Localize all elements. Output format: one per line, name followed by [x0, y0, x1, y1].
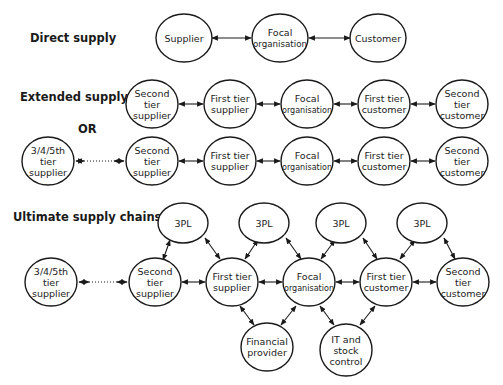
node-u-first-supplier: First tiersupplier	[206, 258, 258, 306]
node-label: Customer	[355, 33, 401, 44]
node-label: Focal	[268, 27, 293, 38]
node-e2-second-supplier: Secondtiersupplier	[126, 137, 178, 185]
node-label: tier	[147, 277, 163, 288]
node-label: 3/4/5th	[34, 266, 68, 277]
node-label: supplier	[213, 282, 251, 293]
node-label: Focal	[297, 271, 322, 282]
node-label: First tier	[366, 271, 405, 282]
edge	[400, 240, 415, 259]
node-label: First tier	[212, 271, 251, 282]
node-e2-first-customer: First tiercustomer	[358, 137, 410, 185]
node-label: supplier	[32, 288, 70, 299]
node-label: First tier	[210, 150, 249, 161]
node-label: 3PL	[413, 218, 431, 229]
edge	[363, 238, 377, 259]
edge	[281, 306, 296, 325]
node-label: First tier	[210, 93, 249, 104]
node-label: Second	[446, 266, 481, 277]
node-label: provider	[247, 347, 287, 358]
node-u-second-supplier: Secondtiersupplier	[129, 258, 181, 306]
node-e2-n-tier-supplier: 3/4/5thtiersupplier	[22, 137, 74, 185]
node-label: supplier	[211, 104, 249, 115]
node-label: First tier	[364, 150, 403, 161]
node-label: Focal	[295, 93, 320, 104]
node-label: stock	[333, 345, 359, 356]
node-label: tier	[40, 156, 56, 167]
section-label-extended-supply: Extended supply	[20, 90, 128, 104]
node-label: 3PL	[255, 218, 273, 229]
node-u-second-customer: Secondtiercustomer	[437, 258, 489, 306]
node-label: tier	[454, 156, 470, 167]
node-label: customer	[440, 110, 485, 121]
node-label: supplier	[29, 167, 67, 178]
node-d-focal: Focalorganisation	[252, 14, 308, 62]
or-label: OR	[78, 122, 97, 136]
node-e2-first-supplier: First tiersupplier	[204, 137, 256, 185]
node-label: Second	[445, 145, 480, 156]
edge	[205, 238, 220, 259]
section-label-ultimate-supply-chains: Ultimate supply chains	[13, 210, 162, 224]
node-label: customer	[362, 104, 407, 115]
node-label: Second	[135, 88, 170, 99]
node-label: 3/4/5th	[31, 145, 65, 156]
node-u-first-customer: First tiercustomer	[360, 258, 412, 306]
node-e2-second-customer: Secondtiercustomer	[436, 137, 488, 185]
section-label-direct-supply: Direct supply	[30, 31, 117, 45]
node-label: tier	[144, 156, 160, 167]
node-label: tier	[144, 99, 160, 110]
node-u-3pl-4: 3PL	[397, 203, 447, 243]
edge	[286, 238, 301, 259]
node-label: customer	[440, 167, 485, 178]
node-e1-first-customer: First tiercustomer	[358, 80, 410, 128]
node-label: supplier	[211, 161, 249, 172]
node-label: Financial	[246, 336, 288, 347]
node-u-it: IT andstockcontrol	[320, 324, 372, 376]
edge	[444, 238, 455, 259]
node-label: organisation	[282, 161, 332, 172]
node-label: 3PL	[174, 218, 192, 229]
node-label: Second	[445, 88, 480, 99]
node-label: Second	[138, 266, 173, 277]
supply-chain-diagram: Direct supply Extended supply OR Ultimat…	[0, 0, 503, 385]
node-u-n-tier-supplier: 3/4/5thtiersupplier	[25, 258, 77, 306]
edge	[163, 240, 170, 260]
node-label: customer	[362, 161, 407, 172]
node-u-3pl-1: 3PL	[158, 203, 208, 243]
node-e1-second-customer: Secondtiercustomer	[436, 80, 488, 128]
node-u-3pl-3: 3PL	[316, 203, 366, 243]
edge	[321, 240, 335, 259]
node-label: organisation	[282, 104, 332, 115]
node-u-focal: Focalorganisation	[283, 258, 335, 306]
node-label: supplier	[133, 110, 171, 121]
node-label: tier	[455, 277, 471, 288]
node-d-supplier: Supplier	[156, 14, 212, 62]
node-label: control	[330, 356, 363, 367]
node-label: Focal	[295, 150, 320, 161]
node-label: supplier	[136, 288, 174, 299]
node-e1-second-supplier: Secondtiersupplier	[126, 80, 178, 128]
node-d-customer: Customer	[350, 14, 406, 62]
node-label: organisation	[284, 282, 334, 293]
node-e1-focal: Focalorganisation	[281, 80, 333, 128]
node-label: First tier	[364, 93, 403, 104]
node-label: customer	[441, 288, 486, 299]
node-label: tier	[43, 277, 59, 288]
node-e2-focal: Focalorganisation	[281, 137, 333, 185]
node-label: supplier	[133, 167, 171, 178]
edge	[245, 240, 258, 259]
edge	[320, 306, 334, 325]
edge	[360, 306, 375, 325]
node-label: tier	[454, 99, 470, 110]
node-label: IT and	[331, 334, 361, 345]
edge	[240, 306, 254, 325]
node-e1-first-supplier: First tiersupplier	[204, 80, 256, 128]
node-label: Supplier	[164, 33, 203, 44]
node-label: 3PL	[332, 218, 350, 229]
node-label: organisation	[253, 38, 307, 49]
node-label: Second	[135, 145, 170, 156]
node-u-3pl-2: 3PL	[239, 203, 289, 243]
node-label: customer	[364, 282, 409, 293]
node-u-financial: Financialprovider	[241, 323, 293, 371]
